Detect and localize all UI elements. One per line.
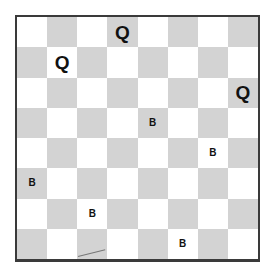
board-square-r7-c1[interactable]: [47, 229, 77, 259]
board-square-r2-c1[interactable]: [47, 78, 77, 108]
board-square-r3-c5[interactable]: [168, 108, 198, 138]
board-square-r2-c2[interactable]: [77, 78, 107, 108]
board-square-r0-c3[interactable]: Q: [107, 17, 137, 47]
board-square-r3-c2[interactable]: [77, 108, 107, 138]
board-square-r7-c3[interactable]: [107, 229, 137, 259]
bishop-piece[interactable]: B: [89, 209, 96, 219]
board-square-r0-c1[interactable]: [47, 17, 77, 47]
board-square-r0-c5[interactable]: [168, 17, 198, 47]
board-square-r7-c0[interactable]: [17, 229, 47, 259]
bishop-piece[interactable]: B: [179, 239, 186, 249]
board-square-r6-c0[interactable]: [17, 199, 47, 229]
board-square-r4-c6[interactable]: B: [198, 138, 228, 168]
board-square-r6-c2[interactable]: B: [77, 199, 107, 229]
board-square-r1-c5[interactable]: [168, 47, 198, 77]
board-square-r4-c7[interactable]: [228, 138, 258, 168]
bishop-piece[interactable]: B: [28, 178, 35, 188]
queen-piece[interactable]: Q: [236, 83, 251, 102]
board-square-r2-c0[interactable]: [17, 78, 47, 108]
board-square-r5-c6[interactable]: [198, 168, 228, 198]
board-square-r4-c1[interactable]: [47, 138, 77, 168]
board-square-r1-c6[interactable]: [198, 47, 228, 77]
bishop-piece[interactable]: B: [149, 118, 156, 128]
board-square-r2-c3[interactable]: [107, 78, 137, 108]
board-square-r1-c0[interactable]: [17, 47, 47, 77]
board-square-r5-c1[interactable]: [47, 168, 77, 198]
board-square-r7-c7[interactable]: [228, 229, 258, 259]
board-square-r4-c2[interactable]: [77, 138, 107, 168]
board-square-r2-c4[interactable]: [138, 78, 168, 108]
board-square-r0-c2[interactable]: [77, 17, 107, 47]
board-square-r3-c1[interactable]: [47, 108, 77, 138]
chess-board: QQQBBBBB: [15, 15, 260, 262]
board-square-r1-c2[interactable]: [77, 47, 107, 77]
board-square-r1-c3[interactable]: [107, 47, 137, 77]
board-square-r3-c4[interactable]: B: [138, 108, 168, 138]
board-square-r2-c6[interactable]: [198, 78, 228, 108]
board-square-r4-c0[interactable]: [17, 138, 47, 168]
board-square-r1-c4[interactable]: [138, 47, 168, 77]
board-square-r0-c6[interactable]: [198, 17, 228, 47]
board-square-r5-c7[interactable]: [228, 168, 258, 198]
board-square-r7-c4[interactable]: [138, 229, 168, 259]
board-square-r6-c6[interactable]: [198, 199, 228, 229]
board-square-r2-c7[interactable]: Q: [228, 78, 258, 108]
bishop-piece[interactable]: B: [209, 148, 216, 158]
board-square-r6-c3[interactable]: [107, 199, 137, 229]
board-square-r3-c3[interactable]: [107, 108, 137, 138]
board-square-r7-c5[interactable]: B: [168, 229, 198, 259]
board-square-r7-c6[interactable]: [198, 229, 228, 259]
board-square-r5-c4[interactable]: [138, 168, 168, 198]
queen-piece[interactable]: Q: [115, 23, 130, 42]
board-square-r4-c4[interactable]: [138, 138, 168, 168]
queen-piece[interactable]: Q: [55, 53, 70, 72]
board-square-r3-c0[interactable]: [17, 108, 47, 138]
board-square-r5-c0[interactable]: B: [17, 168, 47, 198]
board-square-r0-c4[interactable]: [138, 17, 168, 47]
board-square-r4-c5[interactable]: [168, 138, 198, 168]
board-square-r1-c1[interactable]: Q: [47, 47, 77, 77]
board-square-r6-c7[interactable]: [228, 199, 258, 229]
board-square-r3-c6[interactable]: [198, 108, 228, 138]
board-square-r5-c2[interactable]: [77, 168, 107, 198]
board-square-r6-c1[interactable]: [47, 199, 77, 229]
board-square-r2-c5[interactable]: [168, 78, 198, 108]
board-square-r6-c5[interactable]: [168, 199, 198, 229]
board-square-r1-c7[interactable]: [228, 47, 258, 77]
board-square-r4-c3[interactable]: [107, 138, 137, 168]
board-square-r5-c5[interactable]: [168, 168, 198, 198]
board-square-r5-c3[interactable]: [107, 168, 137, 198]
board-square-r6-c4[interactable]: [138, 199, 168, 229]
board-square-r3-c7[interactable]: [228, 108, 258, 138]
board-square-r0-c0[interactable]: [17, 17, 47, 47]
board-square-r0-c7[interactable]: [228, 17, 258, 47]
